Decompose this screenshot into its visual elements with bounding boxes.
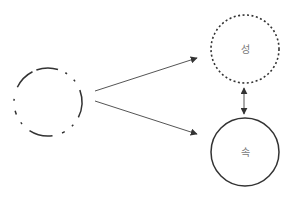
sok-label: 속 [241,147,250,158]
arrow-to-seong [95,58,197,91]
seong-label: 성 [241,44,250,55]
sok-circle: 속 [211,118,279,186]
source-circle [4,58,91,145]
diagram-canvas: 성 속 [0,0,293,203]
seong-circle: 성 [211,15,279,83]
arrow-to-sok [95,101,197,134]
